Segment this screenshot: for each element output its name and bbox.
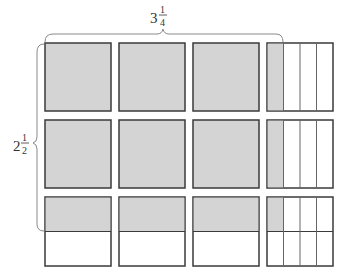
cell-r1-c1 bbox=[45, 43, 111, 111]
height-label-whole: 2 bbox=[13, 138, 21, 154]
half-row bbox=[45, 197, 333, 266]
width-label-denominator: 4 bbox=[160, 17, 165, 28]
full-squares bbox=[45, 43, 259, 188]
width-label: 3 1 4 bbox=[150, 4, 167, 28]
height-label: 2 1 2 bbox=[13, 132, 29, 156]
cell-r1-c2 bbox=[119, 43, 185, 111]
cell-r1-c3 bbox=[193, 43, 259, 111]
height-label-denominator: 2 bbox=[22, 145, 27, 156]
cell-r2-c1 bbox=[45, 120, 111, 188]
height-label-numerator: 1 bbox=[22, 132, 27, 143]
cell-r2-c3 bbox=[193, 120, 259, 188]
cell-r2-c2 bbox=[119, 120, 185, 188]
quarter-column bbox=[267, 43, 333, 188]
width-brace bbox=[45, 29, 283, 42]
height-brace bbox=[33, 44, 44, 231]
width-label-numerator: 1 bbox=[160, 4, 165, 15]
area-model-diagram: 3 1 4 2 1 2 bbox=[0, 0, 345, 275]
width-label-whole: 3 bbox=[150, 10, 158, 26]
